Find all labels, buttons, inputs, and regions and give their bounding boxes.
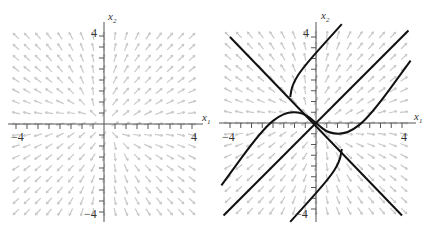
y-tick-label-neg4: −4 [84,207,97,221]
x1-axis [8,124,203,129]
y-tick-label-4: 4 [303,26,309,40]
x-tick-label-4: 4 [191,130,197,144]
x2-axis-label: x2 [320,9,330,24]
x-tick-label-neg4: −4 [11,130,24,144]
y-tick-label-4: 4 [91,26,97,40]
x2-axis-label: x2 [107,10,117,25]
y-tick-label-neg4: −4 [295,207,308,221]
x-tick-label-4: 4 [401,130,407,144]
left-direction-field-plot: −4 4 4 −4 x1 x2 [0,0,215,234]
x-tick-label-neg4: −4 [222,130,235,144]
right-phase-portrait-plot: −4 4 4 −4 x1 x2 [215,0,431,234]
